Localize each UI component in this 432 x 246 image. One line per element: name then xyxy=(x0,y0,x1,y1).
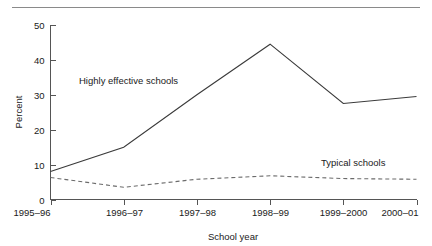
x-tick-label: 1997–98 xyxy=(179,207,216,218)
x-tick-label: 2000–01 xyxy=(382,207,419,218)
x-axis-tick-labels: 1995–961996–971997–981998–991999–2000200… xyxy=(14,207,419,218)
series-annotation: Highly effective schools xyxy=(79,75,178,86)
x-tick-label: 1998–99 xyxy=(252,207,289,218)
series-annotation: Typical schools xyxy=(321,157,386,168)
y-tick-label: 10 xyxy=(34,160,45,171)
y-tick-label: 40 xyxy=(34,55,45,66)
x-axis-ticks xyxy=(52,200,418,205)
y-axis-tick-labels: 01020304050 xyxy=(34,20,45,206)
series-annotations: Highly effective schoolsTypical schools xyxy=(79,75,386,168)
line-chart: 01020304050 1995–961996–971997–981998–99… xyxy=(0,0,432,246)
y-axis-title: Percent xyxy=(13,95,24,128)
y-tick-label: 50 xyxy=(34,20,45,31)
y-tick-label: 30 xyxy=(34,90,45,101)
x-tick-label: 1999–2000 xyxy=(320,207,368,218)
y-axis-ticks xyxy=(51,26,56,201)
series-line-highly-effective-schools xyxy=(51,44,417,171)
x-tick-label: 1996–97 xyxy=(106,207,143,218)
series-line-typical-schools xyxy=(51,176,417,188)
y-tick-label: 20 xyxy=(34,125,45,136)
x-tick-label: 1995–96 xyxy=(14,207,51,218)
chart-page: 01020304050 1995–961996–971997–981998–99… xyxy=(0,0,432,246)
x-axis-title: School year xyxy=(208,231,258,242)
axes xyxy=(51,25,417,200)
y-tick-label: 0 xyxy=(39,195,44,206)
